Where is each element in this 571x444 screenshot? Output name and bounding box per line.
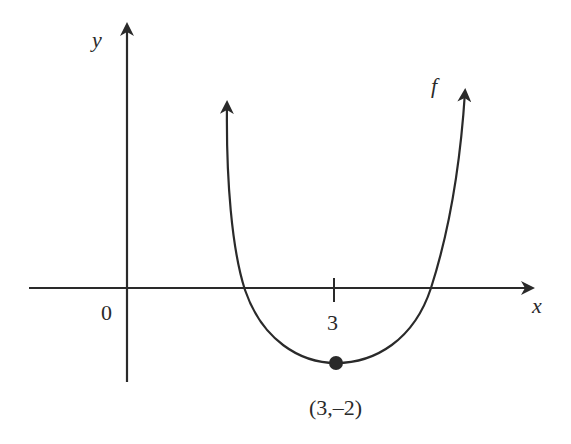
x-tick-label-3: 3 [327, 310, 338, 335]
x-axis-label: x [531, 293, 542, 318]
curve-f-left-arm [227, 104, 336, 363]
graph-canvas: y x 0 3 f (3,–2) [0, 0, 571, 444]
curve-name-label: f [431, 73, 440, 98]
vertex-label: (3,–2) [309, 395, 362, 420]
origin-label: 0 [101, 300, 112, 325]
y-axis-label: y [90, 27, 102, 52]
vertex-point [329, 356, 343, 370]
curve-f-right-arm [336, 92, 465, 363]
